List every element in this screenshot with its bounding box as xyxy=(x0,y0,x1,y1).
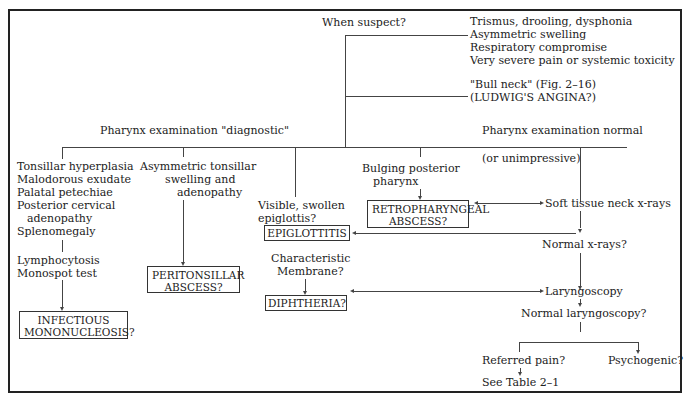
when-suspect-question: When suspect? xyxy=(322,16,406,29)
connector xyxy=(62,240,63,252)
branch-line xyxy=(62,147,627,148)
test: Monospot test xyxy=(17,267,97,280)
criterion: Respiratory compromise xyxy=(470,41,607,54)
arrow-right-icon xyxy=(540,201,544,205)
dx-line: RETROPHARYNGEAL xyxy=(372,203,464,215)
criterion: Very severe pain or systemic toxicity xyxy=(470,54,675,67)
criterion: Trismus, drooling, dysphonia xyxy=(470,15,632,28)
arrow-right-icon xyxy=(540,289,544,293)
connector xyxy=(580,147,581,202)
connector xyxy=(580,322,581,332)
finding: Characteristic xyxy=(271,252,351,265)
finding: adenopathy xyxy=(177,186,242,199)
pharynx-normal-label: Pharynx examination normal xyxy=(482,124,643,137)
connector xyxy=(183,147,184,157)
connector xyxy=(420,147,421,157)
dx-line: PERITONSILLAR xyxy=(152,269,235,281)
psychogenic: Psychogenic? xyxy=(608,354,683,367)
finding: epiglottis? xyxy=(258,212,316,225)
test: Lymphocytosis xyxy=(17,254,100,267)
finding: Visible, swollen xyxy=(258,199,345,212)
laryngoscopy: Laryngoscopy xyxy=(545,285,623,298)
finding: Malodorous exudate xyxy=(17,173,131,186)
bidirectional-connector xyxy=(478,203,540,204)
soft-tissue-xrays: Soft tissue neck x-rays xyxy=(545,197,671,210)
retropharyngeal-abscess-box: RETROPHARYNGEAL ABSCESS? xyxy=(367,200,469,228)
finding: Membrane? xyxy=(277,265,344,278)
normal-xrays: Normal x-rays? xyxy=(542,238,627,251)
arrow-down-icon xyxy=(578,229,582,233)
connector xyxy=(580,253,581,287)
diphtheria-box: DIPHTHERIA? xyxy=(265,295,347,311)
finding: Splenomegaly xyxy=(17,225,96,238)
connector xyxy=(519,342,520,352)
arrow-left-icon xyxy=(350,289,354,293)
connector xyxy=(295,147,296,197)
dx-line: MONONUCLEOSIS? xyxy=(24,326,123,338)
finding: pharynx xyxy=(373,175,418,188)
connector xyxy=(580,211,581,228)
peritonsillar-abscess-box: PERITONSILLAR ABSCESS? xyxy=(147,266,240,293)
finding: swelling and xyxy=(165,173,235,186)
connector xyxy=(183,200,184,263)
bidirectional-connector xyxy=(354,291,540,292)
dx-line: ABSCESS? xyxy=(152,281,235,293)
connector xyxy=(62,280,63,308)
criterion: Asymmetric swelling xyxy=(470,28,586,41)
pharynx-normal-sub: (or unimpressive) xyxy=(482,152,580,165)
bidirectional-connector xyxy=(356,233,576,234)
dx-line: INFECTIOUS xyxy=(24,314,123,326)
connector xyxy=(62,147,63,159)
normal-laryngoscopy: Normal laryngoscopy? xyxy=(521,307,646,320)
dx-line: ABSCESS? xyxy=(372,215,464,227)
ludwig-angina-label: (LUDWIG'S ANGINA?) xyxy=(470,91,596,104)
infectious-mononucleosis-box: INFECTIOUS MONONUCLEOSIS? xyxy=(19,311,128,339)
connector xyxy=(345,35,346,148)
finding: Asymmetric tonsillar xyxy=(140,160,235,173)
branch-line xyxy=(519,342,639,343)
finding: Bulging posterior xyxy=(362,162,460,175)
epiglottitis-box: EPIGLOTTITIS xyxy=(264,225,350,241)
referred-pain: Referred pain? xyxy=(482,354,565,367)
finding: Tonsillar hyperplasia xyxy=(17,160,134,173)
finding: Posterior cervical xyxy=(17,199,115,212)
see-table-reference: See Table 2–1 xyxy=(482,376,559,389)
arrow-left-icon xyxy=(474,201,478,205)
finding: adenopathy xyxy=(27,212,92,225)
finding: Palatal petechiae xyxy=(17,186,113,199)
bull-neck-label: "Bull neck" (Fig. 2–16) xyxy=(470,78,596,91)
connector xyxy=(345,35,468,36)
arrow-left-icon xyxy=(352,231,356,235)
connector xyxy=(345,96,468,97)
pharynx-diagnostic-label: Pharynx examination "diagnostic" xyxy=(100,124,289,137)
